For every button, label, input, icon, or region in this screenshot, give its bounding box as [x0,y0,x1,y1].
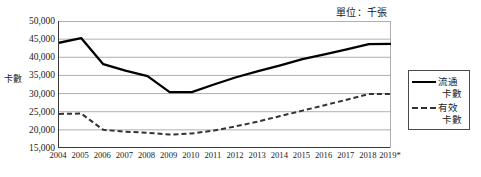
legend-label-line2: 卡數 [412,114,466,126]
x-tick-label: 2007 [116,150,133,160]
legend-label-line1: 流通 [436,76,458,88]
x-tick-label: 2015 [293,150,310,160]
plot-lines [59,21,391,148]
chart-legend: 流通卡數有效卡數 [408,70,470,130]
legend-label-line1: 有效 [436,102,458,114]
x-tick-label: 2005 [72,150,89,160]
x-tick-label: 2011 [204,150,221,160]
y-tick-label: 20,000 [5,125,55,135]
legend-solid-line-icon [412,77,436,87]
y-tick-label: 15,000 [5,143,55,153]
legend-dashed-line-icon [412,103,436,113]
y-axis-tick-labels: 50,00045,00040,00035,00030,00025,00020,0… [0,0,55,177]
x-tick-label: 2008 [138,150,155,160]
x-axis-tick-labels: 2004200520062007200820092010201120122013… [58,150,390,164]
x-tick-label: 2013 [249,150,266,160]
x-tick-label: 2006 [94,150,111,160]
x-tick-label: 2019* [379,150,400,160]
series-line-1 [59,38,391,92]
x-tick-label: 2012 [226,150,243,160]
chart-figure: 單位：千張 卡數 50,00045,00040,00035,00030,0002… [0,0,481,177]
y-tick-label: 45,000 [5,34,55,44]
legend-entry[interactable]: 有效卡數 [412,101,466,127]
x-tick-label: 2009 [160,150,177,160]
x-tick-label: 2017 [337,150,354,160]
x-tick-label: 2004 [49,150,66,160]
y-tick-label: 40,000 [5,52,55,62]
plot-area [58,21,390,148]
y-tick-label: 25,000 [5,107,55,117]
x-tick-label: 2014 [271,150,288,160]
y-tick-label: 50,000 [5,16,55,26]
x-tick-label: 2016 [315,150,332,160]
legend-label-line2: 卡數 [412,88,466,100]
x-tick-label: 2010 [182,150,199,160]
unit-note: 單位：千張 [336,4,388,19]
legend-entry[interactable]: 流通卡數 [412,75,466,101]
y-tick-label: 35,000 [5,70,55,80]
x-tick-label: 2018 [359,150,376,160]
series-line-2 [59,94,391,135]
y-tick-label: 30,000 [5,89,55,99]
